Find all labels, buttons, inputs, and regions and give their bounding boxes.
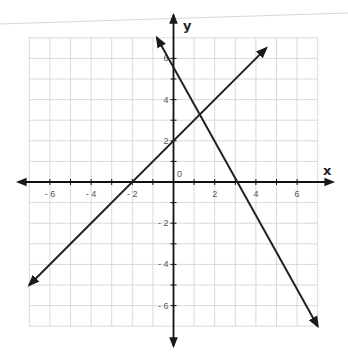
x-tick-label: - 4 — [86, 189, 97, 199]
x-tick-label: 2 — [212, 189, 217, 199]
y-tick-label: 4 — [163, 95, 168, 105]
y-tick-label: - 4 — [158, 259, 169, 269]
line-increasing — [29, 48, 266, 285]
x-tick-label: - 2 — [127, 189, 138, 199]
y-tick-label: - 6 — [158, 301, 169, 311]
y-axis-label: y — [183, 18, 192, 33]
x-tick-label: 4 — [253, 189, 258, 199]
coordinate-plane: - 6- 4- 2246- 6- 4- 2246 x y 0 — [0, 0, 348, 359]
x-tick-label: - 6 — [45, 189, 56, 199]
axes — [18, 15, 333, 346]
origin-label: 0 — [177, 169, 182, 179]
y-tick-label: 2 — [163, 136, 168, 146]
y-tick-label: - 2 — [158, 218, 169, 228]
x-axis-label: x — [323, 163, 332, 178]
x-tick-label: 6 — [295, 189, 300, 199]
